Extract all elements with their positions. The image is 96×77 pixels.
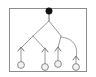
node-leaf3 — [55, 61, 62, 68]
node-leaf1 — [18, 62, 25, 69]
node-root — [46, 8, 52, 14]
node-leaf2 — [42, 64, 49, 71]
tree-diagram-figure — [0, 0, 96, 77]
diagram-canvas — [0, 0, 96, 77]
node-leaf4 — [73, 64, 80, 71]
